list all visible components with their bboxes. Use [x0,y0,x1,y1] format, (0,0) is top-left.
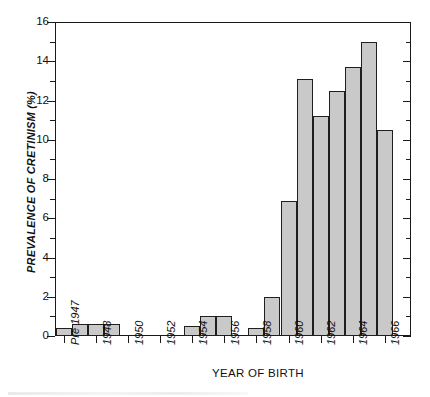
caption-edge [8,392,248,395]
x-tick [128,336,129,343]
y-tick-label: 14 [9,54,49,66]
y-tick-label: 8 [9,172,49,184]
y-tick-minor-right [406,199,411,200]
bar [377,130,393,336]
x-tick [385,336,386,343]
y-tick-major-right [403,61,411,62]
y-tick-minor [50,316,55,317]
y-tick-minor [50,159,55,160]
x-tick-label: 1964 [357,321,369,345]
x-tick [160,336,161,343]
bar [361,42,377,336]
y-tick-minor-right [406,316,411,317]
x-tick-label: 1954 [197,321,209,345]
y-tick-minor-right [406,120,411,121]
bar [329,91,345,336]
x-tick [96,336,97,343]
x-tick [224,336,225,343]
y-tick-minor-right [406,277,411,278]
y-tick-major-right [403,101,411,102]
x-tick-label: Pre 1947 [69,300,81,345]
y-tick-major-right [403,258,411,259]
x-tick-label: 1948 [101,321,113,345]
y-tick-minor [50,42,55,43]
x-tick-label: 1950 [133,321,145,345]
y-tick-minor [50,81,55,82]
y-tick-label: 6 [9,211,49,223]
bar [345,67,361,336]
y-tick-major-right [403,218,411,219]
y-tick-minor [50,277,55,278]
y-tick-major-right [403,22,411,23]
x-tick-label: 1960 [293,321,305,345]
x-tick-label: 1958 [261,321,273,345]
x-tick-label: 1966 [389,321,401,345]
y-tick-label: 0 [9,329,49,341]
x-tick [256,336,257,343]
y-tick-minor [50,199,55,200]
y-tick-label: 10 [9,133,49,145]
x-tick [289,336,290,343]
x-tick [321,336,322,343]
bar [281,201,297,336]
x-axis-title: YEAR OF BIRTH [212,367,304,379]
y-tick-minor-right [406,159,411,160]
x-tick-label: 1956 [229,321,241,345]
x-tick [192,336,193,343]
y-tick-minor-right [406,238,411,239]
y-tick-major-right [403,140,411,141]
y-tick-major-right [403,336,411,337]
bar [297,79,313,336]
y-tick-label: 4 [9,251,49,263]
x-tick [353,336,354,343]
y-tick-minor [50,120,55,121]
y-tick-minor-right [406,42,411,43]
x-tick-label: 1962 [325,321,337,345]
y-tick-label: 16 [9,15,49,27]
y-tick-label: 2 [9,290,49,302]
x-tick [64,336,65,343]
bar [313,116,329,336]
y-tick-major-right [403,179,411,180]
y-tick-minor [50,238,55,239]
y-tick-major-right [403,297,411,298]
y-tick-label: 12 [9,94,49,106]
x-tick-label: 1952 [165,321,177,345]
chart-figure: PREVALENCE OF CRETINISM (%) 024681012141… [0,0,430,397]
y-tick-minor-right [406,81,411,82]
